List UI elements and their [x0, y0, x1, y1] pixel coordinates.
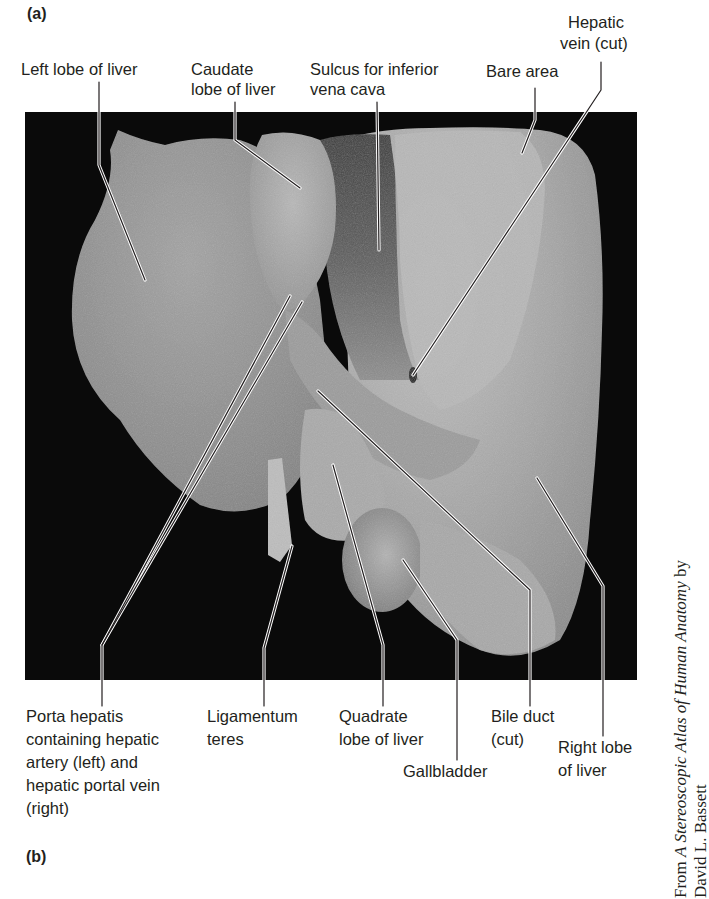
label-bile-duct-line2: (cut)	[491, 730, 524, 749]
credit-line2: David L. Bassett	[691, 560, 709, 898]
label-porta-line1: Porta hepatis	[26, 707, 123, 726]
label-porta-line5: (right)	[26, 799, 69, 818]
panel-label-b: (b)	[26, 848, 46, 866]
label-right-lobe-line1: Right lobe	[558, 738, 632, 757]
credit-line1: From A Stereoscopic Atlas of Human Anato…	[671, 560, 691, 898]
label-quadrate-line2: lobe of liver	[339, 730, 423, 749]
credit-book-title: A Stereoscopic Atlas of Human Anatomy	[671, 581, 690, 857]
label-right-lobe-line2: of liver	[558, 761, 607, 780]
label-ligamentum-line2: teres	[207, 730, 244, 749]
label-quadrate-line1: Quadrate	[339, 707, 408, 726]
label-porta-line4: hepatic portal vein	[26, 776, 160, 795]
label-gallbladder: Gallbladder	[403, 762, 487, 781]
label-bile-duct-line1: Bile duct	[491, 707, 554, 726]
label-ligamentum-line1: Ligamentum	[207, 707, 298, 726]
label-porta-line2: containing hepatic	[26, 730, 159, 749]
source-credit: From A Stereoscopic Atlas of Human Anato…	[671, 560, 709, 898]
label-porta-line3: artery (left) and	[26, 753, 138, 772]
gallbladder-shape	[342, 508, 422, 612]
